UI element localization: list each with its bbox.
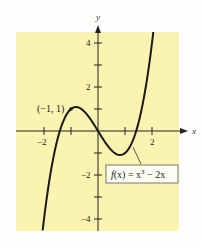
x-tick-label-neg2: −2 (37, 137, 47, 147)
x-axis-label: x (191, 126, 196, 136)
x-axis-arrow-icon (180, 128, 188, 134)
x-tick-label-2: 2 (150, 137, 155, 147)
point-label: (−1, 1) (37, 103, 64, 115)
graph-figure: x y −2 2 4 2 −2 −4 (−1, 1) f(x) = x3 − 2… (0, 0, 203, 246)
y-axis-label: y (95, 12, 100, 22)
y-tick-label-4: 4 (86, 38, 91, 48)
local-max-point (69, 107, 73, 111)
y-axis-arrow-icon (95, 25, 101, 33)
y-tick-label-2: 2 (86, 82, 91, 92)
y-tick-label-neg4: −4 (81, 214, 91, 224)
y-tick-label-neg2: −2 (81, 170, 91, 180)
function-label: f(x) = x3 − 2x (111, 168, 165, 181)
fn-label-body: (x) = x (114, 169, 141, 181)
